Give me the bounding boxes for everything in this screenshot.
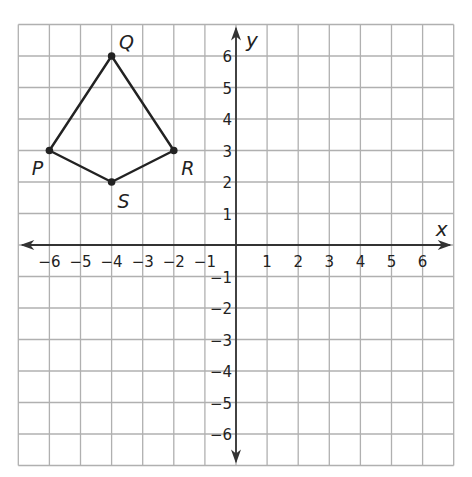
y-tick-label: −2 <box>210 300 232 318</box>
y-tick-label: −1 <box>210 269 232 287</box>
x-tick-label: −5 <box>69 253 91 271</box>
vertex-label-p: P <box>32 157 44 179</box>
y-tick-label: 5 <box>222 80 232 98</box>
y-tick-label: −3 <box>210 332 232 350</box>
x-tick-label: −4 <box>101 253 123 271</box>
y-tick-label: 6 <box>222 48 232 66</box>
x-tick-label: 5 <box>387 253 397 271</box>
vertex-point-s <box>108 178 116 186</box>
vertex-label-r: R <box>181 157 194 179</box>
x-tick-label: 1 <box>262 253 272 271</box>
tick-labels: −6−5−4−3−2−1123456654321−1−2−3−4−5−6xy <box>38 28 447 445</box>
vertex-point-p <box>46 147 54 155</box>
x-tick-label: 2 <box>293 253 303 271</box>
x-tick-label: −6 <box>38 253 60 271</box>
coordinate-plane: −6−5−4−3−2−1123456654321−1−2−3−4−5−6xy P… <box>0 0 472 477</box>
vertex-label-s: S <box>118 190 130 212</box>
vertex-point-r <box>170 147 178 155</box>
axes <box>20 27 451 464</box>
y-tick-label: −4 <box>210 363 232 381</box>
x-tick-label: 6 <box>418 253 428 271</box>
y-axis-label: y <box>245 28 259 52</box>
x-tick-label: 3 <box>325 253 335 271</box>
y-tick-label: 3 <box>222 143 232 161</box>
y-tick-label: 4 <box>222 111 232 129</box>
vertex-label-q: Q <box>119 31 134 53</box>
y-tick-label: −6 <box>210 426 232 444</box>
y-tick-label: −5 <box>210 395 232 413</box>
vertex-point-q <box>108 52 116 60</box>
x-tick-label: −3 <box>132 253 154 271</box>
y-tick-label: 2 <box>222 174 232 192</box>
x-tick-label: 4 <box>356 253 366 271</box>
x-tick-label: −2 <box>163 253 185 271</box>
x-axis-label: x <box>435 217 448 241</box>
y-tick-label: 1 <box>222 206 232 224</box>
